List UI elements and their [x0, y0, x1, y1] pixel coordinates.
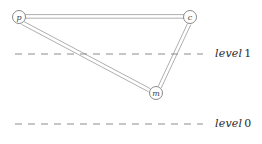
level-0-label-word: level	[215, 117, 242, 130]
edge-p-c	[25, 15, 184, 19]
node-c[interactable]: c	[184, 11, 197, 24]
level-1-label-number: 1	[242, 47, 251, 60]
level-1-label: level1	[215, 47, 251, 60]
node-m-label: m	[152, 89, 160, 98]
edge-p-m	[21, 22, 150, 92]
edge-m-c	[158, 23, 191, 88]
level-1-label-word: level	[215, 47, 242, 60]
level-graph-figure: p c m level1 level0	[0, 0, 262, 144]
node-m[interactable]: m	[150, 87, 163, 100]
node-p-label: p	[16, 13, 21, 22]
level-0-label: level0	[215, 117, 251, 130]
level-0-label-number: 0	[242, 117, 251, 130]
node-c-label: c	[188, 13, 193, 22]
node-p[interactable]: p	[13, 11, 26, 24]
